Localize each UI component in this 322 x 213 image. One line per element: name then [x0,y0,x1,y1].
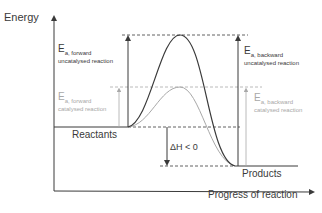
delta-h-label: ΔH < 0 [170,142,198,152]
reactants-label: Reactants [72,129,117,140]
energy-profile-diagram: Energy Progress of reaction Reactants Pr… [0,0,322,213]
ea-backward-cat-label: Ea, backward [254,92,293,105]
ea-backward-uncat-label: Ea, backward [244,45,283,58]
ea-backward-cat-desc: catalysed reaction [254,107,302,113]
ea-forward-uncat-desc: uncatalysed reaction [58,58,113,64]
x-axis-label: Progress of reaction [208,189,298,200]
y-axis-label: Energy [4,11,39,23]
ea-forward-cat-desc: catalysed reaction [58,106,106,112]
products-label: Products [242,168,281,179]
ea-forward-uncat-label: Ea, forward [58,43,91,56]
ea-backward-uncat-desc: uncatalysed reaction [244,60,299,66]
ea-forward-cat-label: Ea, forward [58,91,91,104]
